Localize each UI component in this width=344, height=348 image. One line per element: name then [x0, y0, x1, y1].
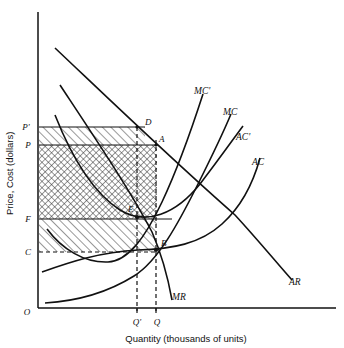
point-label-E: E — [127, 204, 134, 214]
chart-canvas: P' P F C Q' Q O D A E B MC' MC AC' AC MR… — [0, 0, 344, 348]
point-D-dot — [135, 125, 138, 128]
point-label-A: A — [158, 134, 165, 144]
y-tick-label-P: P — [24, 140, 31, 150]
curve-label-MC: MC — [222, 107, 238, 117]
economics-diagram-figure: P' P F C Q' Q O D A E B MC' MC AC' AC MR… — [0, 0, 344, 348]
x-axis-title: Quantity (thousands of units) — [125, 333, 246, 344]
origin-label: O — [24, 307, 31, 317]
point-B-dot — [154, 248, 158, 252]
curve-label-MR: MR — [171, 292, 186, 302]
point-A-dot — [154, 143, 157, 146]
y-tick-label-C: C — [25, 247, 32, 257]
region-band-F-to-C — [39, 219, 157, 252]
y-tick-labels: P' P F C — [21, 122, 32, 257]
curve-label-AR: AR — [288, 277, 301, 287]
x-tick-labels: Q' Q — [133, 317, 161, 327]
region-band-Pprime-to-P — [39, 127, 145, 145]
y-tick-label-F: F — [24, 214, 31, 224]
y-axis-title: Price, Cost (dollars) — [4, 132, 15, 215]
curve-label-ACprime: AC' — [235, 132, 251, 142]
shaded-regions — [39, 127, 157, 252]
x-tick-label-Qprime: Q' — [133, 317, 142, 327]
curve-label-MCprime: MC' — [193, 86, 211, 96]
x-tick-label-Q: Q — [154, 317, 161, 327]
y-tick-label-Pprime: P' — [21, 122, 30, 132]
curve-label-AC: AC — [251, 157, 265, 167]
point-E-dot — [135, 215, 139, 219]
point-label-B: B — [161, 238, 167, 248]
point-label-D: D — [144, 117, 152, 127]
